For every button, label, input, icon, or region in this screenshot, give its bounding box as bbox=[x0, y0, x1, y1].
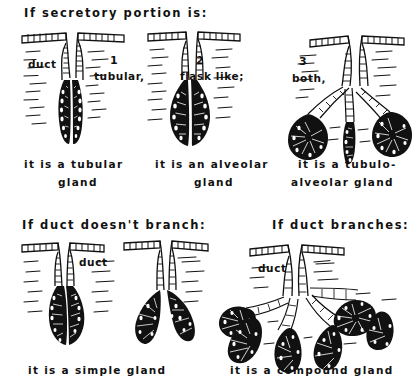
gland-classification-figure bbox=[0, 0, 419, 392]
caption-tubuloalveolar-line2: alveolar gland bbox=[291, 176, 394, 188]
duct-label-simple: duct bbox=[79, 256, 108, 268]
top-section-heading: If secretory portion is: bbox=[24, 6, 208, 20]
type-label-tubular: tubular, bbox=[94, 70, 145, 82]
caption-tubular-line1: it is a tubular bbox=[24, 158, 123, 170]
caption-tubuloalveolar-line1: it is a tubulo- bbox=[298, 158, 397, 170]
type-label-flask: flask like; bbox=[180, 70, 244, 82]
caption-compound-gland: it is a compound gland bbox=[230, 364, 394, 376]
number-label-2: 2 bbox=[196, 54, 204, 67]
caption-alveolar-line2: gland bbox=[194, 176, 234, 188]
number-label-3: 3 bbox=[299, 55, 307, 68]
type-label-both: both, bbox=[292, 72, 326, 84]
diagram-tubular-gland bbox=[22, 33, 124, 144]
duct-label-compound: duct bbox=[258, 262, 287, 274]
caption-simple-gland: it is a simple gland bbox=[28, 364, 166, 376]
diagram-alveolar-gland bbox=[148, 32, 240, 146]
caption-tubular-line2: gland bbox=[58, 176, 98, 188]
number-label-1: 1 bbox=[110, 54, 118, 67]
bottom-left-heading: If duct doesn't branch: bbox=[22, 218, 206, 232]
diagram-compound-gland bbox=[219, 245, 396, 373]
duct-label-tubular: duct bbox=[28, 58, 57, 70]
caption-alveolar-line1: it is an alveolar bbox=[155, 158, 269, 170]
bottom-right-heading: If duct branches: bbox=[272, 218, 409, 232]
diagram-simple-gland bbox=[22, 241, 208, 345]
